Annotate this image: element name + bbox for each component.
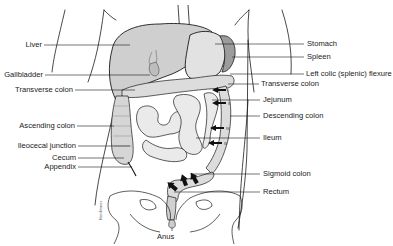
label-spleen: Spleen [307,52,331,61]
svg-text:III: III [224,142,227,146]
stomach [185,31,225,80]
label-liver: Liver [26,40,42,49]
label-jejunum: Jejunum [263,95,292,104]
body-outline-left-inner [88,10,104,82]
label-cecum: Cecum [52,153,76,162]
label-transverse-colon-left: Transverse colon [15,85,73,94]
label-sigmoid-colon: Sigmoid colon [263,169,311,178]
label-ileum: Ileum [263,133,282,142]
svg-text:II: II [228,102,230,106]
artist-signature: Nordmann [98,201,103,220]
label-ascending-colon: Ascending colon [19,121,75,130]
ascending-colon [111,96,133,164]
body-outline-left-outer [52,10,65,72]
shoulder-left [104,10,116,20]
label-left-colic-flexure: Left colic (splenic) flexure [306,69,392,78]
label-transverse-colon-right: Transverse colon [261,79,319,88]
appendix [128,162,136,176]
torso-right [239,100,248,230]
rectum [167,196,177,220]
label-ileocecal-junction: Ileocecal junction [18,141,76,150]
label-rectum: Rectum [263,187,289,196]
label-stomach: Stomach [307,39,337,48]
shoulder-right [235,10,249,25]
small-intestine [137,93,219,162]
label-gallbladder: Gallbladder [4,70,43,79]
body-outline-right-inner [248,10,254,92]
anus [169,220,176,228]
label-appendix: Appendix [44,162,76,171]
label-anus: Anus [157,232,174,241]
body-outline-right-outer [282,10,291,74]
label-descending-colon: Descending colon [263,111,323,120]
svg-text:I: I [228,89,229,93]
